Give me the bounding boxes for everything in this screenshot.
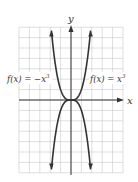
left-curve-label: f(x) = −x3 (6, 73, 50, 84)
right-curve-label: f(x) = x3 (89, 73, 126, 84)
x-axis-label: x (127, 95, 133, 106)
cubic-graph: y x f(x) = −x3 f(x) = x3 (0, 0, 138, 182)
y-axis-label: y (67, 13, 74, 24)
y-axis-arrow-icon (69, 25, 74, 32)
